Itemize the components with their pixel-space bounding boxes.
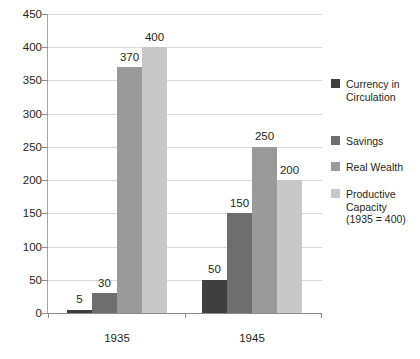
bar-value-label: 250 <box>243 131 287 143</box>
bar-group: 530370400 <box>67 14 167 313</box>
x-axis-separator <box>321 313 322 318</box>
legend-item[interactable]: Savings <box>331 135 383 148</box>
y-axis-tick-label: 350 <box>6 75 42 87</box>
y-axis-tick <box>42 180 48 181</box>
bar <box>227 213 252 313</box>
y-axis-tick-label: 300 <box>6 109 42 121</box>
legend-item[interactable]: ProductiveCapacity(1935 = 400) <box>331 188 406 226</box>
y-axis-tick-label: 0 <box>6 308 42 320</box>
y-axis-line <box>47 14 48 313</box>
y-axis-tick-label: 200 <box>6 175 42 187</box>
bar <box>67 310 92 313</box>
y-axis-tick-label: 450 <box>6 9 42 21</box>
bar-group: 50150250200 <box>202 14 302 313</box>
legend-item[interactable]: Real Wealth <box>331 161 403 174</box>
bar-value-label: 400 <box>133 32 177 44</box>
bar <box>92 293 117 313</box>
bar <box>277 180 302 313</box>
y-axis-tick <box>42 247 48 248</box>
legend-label: ProductiveCapacity(1935 = 400) <box>346 188 406 226</box>
bar-value-label: 200 <box>268 165 312 177</box>
y-axis-tick-label: 250 <box>6 142 42 154</box>
y-axis-tick-label: 150 <box>6 208 42 220</box>
y-axis-tick <box>42 80 48 81</box>
y-axis-tick-label: 400 <box>6 42 42 54</box>
legend-label: Currency inCirculation <box>346 78 400 103</box>
legend-item[interactable]: Currency inCirculation <box>331 78 400 103</box>
legend-label: Savings <box>346 135 383 148</box>
y-axis-tick <box>42 280 48 281</box>
y-axis-tick-label: 100 <box>6 242 42 254</box>
y-axis-tick <box>42 47 48 48</box>
legend-label: Real Wealth <box>346 161 403 174</box>
bar-chart: 050100150200250300350400450 530370400501… <box>0 0 420 359</box>
bar <box>202 280 227 313</box>
y-axis-tick-label: 50 <box>6 275 42 287</box>
y-axis-tick <box>42 114 48 115</box>
y-axis-tick <box>42 14 48 15</box>
y-axis-tick <box>42 147 48 148</box>
legend-swatch-icon <box>331 79 340 88</box>
legend-swatch-icon <box>331 136 340 145</box>
bar <box>142 47 167 313</box>
x-axis-separator <box>185 313 186 318</box>
bar <box>117 67 142 313</box>
x-axis-category-label: 1945 <box>212 333 292 345</box>
x-axis-category-label: 1935 <box>77 333 157 345</box>
y-axis-tick <box>42 213 48 214</box>
legend-swatch-icon <box>331 162 340 171</box>
plot-area: 53037040050150250200 <box>48 14 322 313</box>
legend-swatch-icon <box>331 189 340 198</box>
x-axis-separator <box>48 313 49 318</box>
